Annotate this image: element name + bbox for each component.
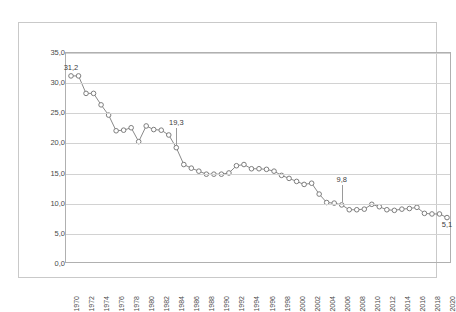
data-point-marker [144,124,149,129]
data-point-marker [182,162,187,167]
data-point-marker [69,74,74,79]
plot-area: 31,219,39,85,1 [65,52,451,263]
y-tick-label: 20,0 [39,138,65,147]
data-label: 5,1 [442,220,452,229]
data-point-marker [166,133,171,138]
cropped-header-strip [0,0,455,12]
x-axis: 1970197219741976197819801982198419861988… [65,264,451,298]
x-tick-label: 1992 [238,296,245,312]
plot-inner: 31,219,39,85,1 [66,53,450,262]
data-point-marker [309,181,314,186]
data-point-marker [407,206,412,211]
y-tick-label: 15,0 [39,168,65,177]
data-label: 31,2 [64,63,79,72]
x-tick-label: 1984 [178,296,185,312]
data-point-marker [121,128,126,133]
x-tick-label: 1994 [253,296,260,312]
y-tick-label: 35,0 [39,48,65,57]
gridline [66,113,450,114]
x-tick-label: 2010 [374,296,381,312]
chart-frame: 35,030,025,020,015,010,05,00,0 31,219,39… [18,22,437,278]
x-tick-label: 2004 [329,296,336,312]
data-point-marker [264,167,269,172]
data-point-marker [354,207,359,212]
data-point-marker [287,176,292,181]
x-tick-label: 2002 [314,296,321,312]
data-point-marker [151,127,156,132]
x-tick-label: 2008 [359,296,366,312]
x-tick-label: 1986 [193,296,200,312]
data-point-marker [422,211,427,216]
x-tick-label: 1970 [73,296,80,312]
y-tick-label: 25,0 [39,108,65,117]
gridline [66,234,450,235]
y-tick-label: 30,0 [39,78,65,87]
x-tick-label: 1988 [208,296,215,312]
gridline [66,204,450,205]
data-point-marker [99,103,104,108]
line-series [66,53,452,264]
data-point-marker [249,166,254,171]
data-point-marker [430,212,435,217]
data-point-marker [377,204,382,209]
annotation-leader-line [176,128,177,145]
data-point-marker [257,166,262,171]
x-tick-label: 1974 [103,296,110,312]
x-tick-label: 2014 [404,296,411,312]
x-tick-label: 2006 [344,296,351,312]
data-point-marker [302,182,307,187]
x-tick-label: 1980 [148,296,155,312]
x-tick-label: 1972 [88,296,95,312]
data-point-marker [76,74,81,79]
data-point-marker [317,192,322,197]
data-point-marker [385,207,390,212]
x-tick-label: 2016 [419,296,426,312]
gridline [66,174,450,175]
x-tick-label: 1996 [269,296,276,312]
annotation-leader-line [342,185,343,202]
x-tick-label: 1982 [163,296,170,312]
y-tick-label: 0,0 [39,259,65,268]
data-label: 9,8 [337,175,347,184]
data-point-marker [174,145,179,150]
x-tick-label: 2000 [299,296,306,312]
data-point-marker [234,163,239,168]
data-point-marker [129,125,134,130]
x-tick-label: 2018 [434,296,441,312]
data-label: 19,3 [169,118,184,127]
x-tick-label: 2012 [389,296,396,312]
data-point-marker [242,162,247,167]
data-point-marker [294,179,299,184]
y-tick-label: 10,0 [39,198,65,207]
x-tick-label: 1990 [223,296,230,312]
gridline [66,53,450,54]
y-axis: 35,030,025,020,015,010,05,00,0 [37,52,65,263]
data-point-marker [84,91,89,96]
data-point-marker [114,128,119,133]
data-point-marker [415,205,420,210]
x-tick-label: 1978 [133,296,140,312]
x-tick-label: 1976 [118,296,125,312]
data-point-marker [400,207,405,212]
gridline [66,83,450,84]
data-point-marker [189,166,194,171]
gridline [66,143,450,144]
x-tick-label: 2020 [449,296,456,312]
x-tick-label: 1998 [284,296,291,312]
data-point-marker [362,207,367,212]
data-point-marker [445,215,450,220]
data-point-marker [437,212,442,217]
data-point-marker [347,207,352,212]
y-tick-label: 5,0 [39,228,65,237]
data-point-marker [159,128,164,133]
data-point-marker [392,208,397,213]
data-point-marker [91,91,96,96]
